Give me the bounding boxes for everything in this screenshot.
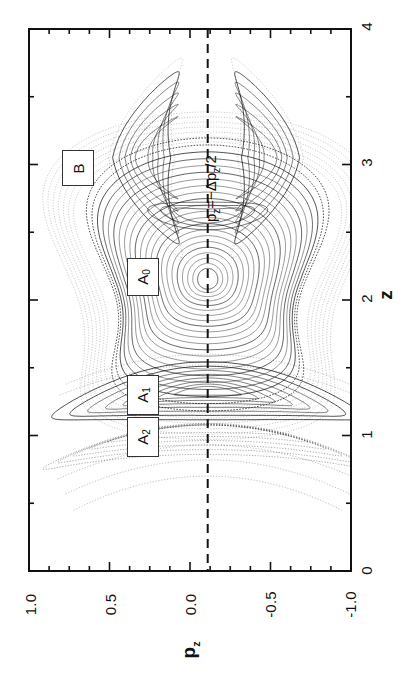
- pz-tick-label-0: 1.0: [22, 585, 39, 625]
- island-label-B: B: [62, 150, 94, 186]
- island-label-A1: A1: [127, 375, 159, 415]
- pz-tick-label-1: 0.5: [102, 585, 119, 625]
- pz-tick-label-3: -0.5: [262, 583, 279, 627]
- dashed-line-annotation: pz=−Δpz/2: [202, 155, 222, 222]
- z-tick-label-3: 3: [358, 151, 375, 175]
- island-label-A2: A2: [127, 417, 159, 457]
- axis-ticks: [29, 29, 351, 571]
- island-label-A0: A0: [127, 258, 159, 296]
- z-tick-label-2: 2: [358, 287, 375, 311]
- plot-vector-layer: [0, 0, 404, 679]
- z-tick-label-4: 4: [358, 15, 375, 39]
- island-label-A1-text: A1: [134, 387, 152, 403]
- z-tick-label-1: 1: [358, 423, 375, 447]
- pz-tick-label-2: 0.0: [182, 585, 199, 625]
- z-axis-title: z: [375, 281, 397, 309]
- island-label-A0-text: A0: [134, 269, 152, 285]
- pz-axis-title: pz: [178, 624, 202, 676]
- pz-tick-label-4: -1.0: [342, 583, 359, 627]
- figure-canvas: 1.0 0.5 0.0 -0.5 -1.0 0 1 2 3 4 z pz pz=…: [0, 0, 404, 679]
- island-label-A2-text: A2: [134, 429, 152, 445]
- island-label-B-text: B: [69, 163, 86, 173]
- z-tick-label-0: 0: [358, 559, 375, 583]
